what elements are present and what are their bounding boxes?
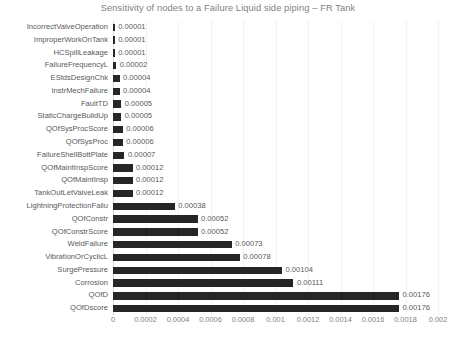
bar-row[interactable]: QOfConstrScore0.00052 (0, 226, 456, 239)
bar-track: 0.00004 (113, 85, 438, 98)
bar-value-label: 0.00012 (133, 187, 164, 200)
category-label: Corrosion (0, 277, 108, 290)
bar[interactable] (113, 203, 175, 210)
bar-row[interactable]: SurgePressure0.00104 (0, 264, 456, 277)
bar[interactable] (113, 292, 399, 299)
bar-track: 0.00012 (113, 174, 438, 187)
bar-row[interactable]: TankOutLetValveLeak0.00012 (0, 187, 456, 200)
category-label: QOfD (0, 289, 108, 302)
bar[interactable] (113, 215, 198, 222)
bar-row[interactable]: ImproperWorkOnTank0.00001 (0, 34, 456, 47)
x-tick-label: 0.002 (429, 315, 448, 324)
x-tick-label: 0.0014 (329, 315, 352, 324)
x-tick-label: 0.0018 (394, 315, 417, 324)
bar-value-label: 0.00006 (123, 136, 154, 149)
bar-value-label: 0.00004 (120, 72, 151, 85)
bar-track: 0.00005 (113, 110, 438, 123)
bar-track: 0.00104 (113, 264, 438, 277)
bar-track: 0.00001 (113, 21, 438, 34)
bar-value-label: 0.00052 (198, 213, 229, 226)
category-label: QOfSysProcScore (0, 123, 108, 136)
category-label: InstrMechFailure (0, 85, 108, 98)
bar-value-label: 0.00001 (115, 34, 146, 47)
category-label: IncorrectValveOperation (0, 21, 108, 34)
bar-value-label: 0.00001 (115, 21, 146, 34)
bar-row[interactable]: WeldFailure0.00073 (0, 238, 456, 251)
sensitivity-bar-chart: Sensitivity of nodes to a Failure Liquid… (0, 0, 456, 346)
bar-row[interactable]: QOfDscore0.00176 (0, 302, 456, 315)
chart-title: Sensitivity of nodes to a Failure Liquid… (0, 3, 456, 13)
x-tick-label: 0.0012 (297, 315, 320, 324)
bar-row[interactable]: StaticChargeBuildUp0.00005 (0, 110, 456, 123)
bar[interactable] (113, 267, 282, 274)
bar[interactable] (113, 254, 240, 261)
category-label: QOfDscore (0, 302, 108, 315)
bar[interactable] (113, 164, 133, 171)
category-label: VibrationOrCyclicL (0, 251, 108, 264)
bar[interactable] (113, 139, 123, 146)
bar-value-label: 0.00005 (121, 110, 152, 123)
bar-track: 0.00001 (113, 47, 438, 60)
bar[interactable] (113, 190, 133, 197)
bar-row[interactable]: HCSpillLeakage0.00001 (0, 47, 456, 60)
bar-row[interactable]: VibrationOrCyclicL0.00078 (0, 251, 456, 264)
bar-track: 0.00012 (113, 187, 438, 200)
bar[interactable] (113, 152, 124, 159)
category-label: WeldFailure (0, 238, 108, 251)
bar-row[interactable]: IncorrectValveOperation0.00001 (0, 21, 456, 34)
bar-track: 0.00176 (113, 289, 438, 302)
bar-track: 0.00001 (113, 34, 438, 47)
bar-value-label: 0.00002 (116, 59, 147, 72)
bar-track: 0.00006 (113, 136, 438, 149)
bar-value-label: 0.00078 (240, 251, 271, 264)
bar-value-label: 0.00176 (399, 289, 430, 302)
bar-row[interactable]: FaultTD0.00005 (0, 98, 456, 111)
category-label: FailureFrequencyL (0, 59, 108, 72)
bar-row[interactable]: QOfSysProc0.00006 (0, 136, 456, 149)
bar-row[interactable]: EStdsDesignChk0.00004 (0, 72, 456, 85)
bar[interactable] (113, 100, 121, 107)
bar-value-label: 0.00111 (293, 277, 323, 290)
bar[interactable] (113, 228, 198, 235)
x-tick-label: 0.0004 (167, 315, 190, 324)
bar-row[interactable]: QOfSysProcScore0.00006 (0, 123, 456, 136)
category-label: HCSpillLeakage (0, 47, 108, 60)
bar-value-label: 0.00001 (115, 47, 146, 60)
bar[interactable] (113, 177, 133, 184)
bar-value-label: 0.00006 (123, 123, 154, 136)
bar-track: 0.00002 (113, 59, 438, 72)
bar[interactable] (113, 279, 293, 286)
bar-value-label: 0.00038 (175, 200, 206, 213)
bar[interactable] (113, 241, 232, 248)
bar-row[interactable]: QOfMaintInsp0.00012 (0, 174, 456, 187)
bar-row[interactable]: QOfD0.00176 (0, 289, 456, 302)
bar-row[interactable]: QOfMaintInspScore0.00012 (0, 162, 456, 175)
bar-track: 0.00007 (113, 149, 438, 162)
bar-value-label: 0.00012 (133, 162, 164, 175)
bar-row[interactable]: FailureFrequencyL0.00002 (0, 59, 456, 72)
bar-track: 0.00052 (113, 213, 438, 226)
bar[interactable] (113, 126, 123, 133)
x-tick-label: 0.0006 (199, 315, 222, 324)
bar-track: 0.00004 (113, 72, 438, 85)
bar-row[interactable]: QOfConstr0.00052 (0, 213, 456, 226)
x-tick-label: 0.001 (266, 315, 285, 324)
category-label: LightningProtectionFailu (0, 200, 108, 213)
bar-row[interactable]: InstrMechFailure0.00004 (0, 85, 456, 98)
bar-row[interactable]: LightningProtectionFailu0.00038 (0, 200, 456, 213)
bar-value-label: 0.00004 (120, 85, 151, 98)
bar[interactable] (113, 305, 399, 312)
x-axis-tick-labels: 00.00020.00040.00060.00080.0010.00120.00… (0, 315, 456, 331)
bar-track: 0.00012 (113, 162, 438, 175)
category-label: QOfSysProc (0, 136, 108, 149)
bar-value-label: 0.00073 (232, 238, 263, 251)
bar-track: 0.00038 (113, 200, 438, 213)
bar-value-label: 0.00052 (198, 226, 229, 239)
bar-track: 0.00052 (113, 226, 438, 239)
category-label: FaultTD (0, 98, 108, 111)
bar-track: 0.00111 (113, 277, 438, 290)
bar-row[interactable]: FailureShellBottPlate0.00007 (0, 149, 456, 162)
bar-row[interactable]: Corrosion0.00111 (0, 277, 456, 290)
bar[interactable] (113, 113, 121, 120)
x-tick-label: 0 (111, 315, 115, 324)
